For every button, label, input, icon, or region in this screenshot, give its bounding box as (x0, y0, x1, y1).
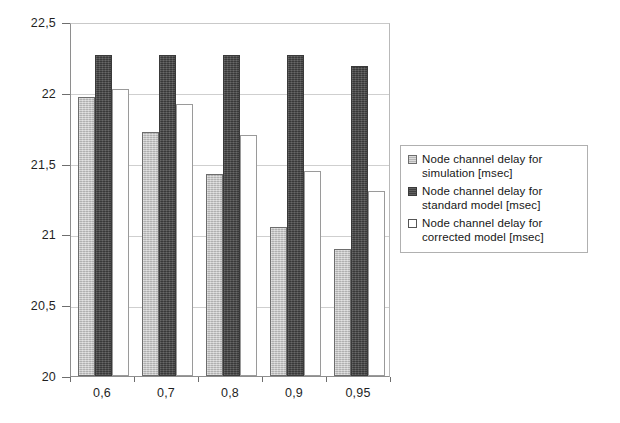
y-tick-label: 22 (10, 88, 56, 100)
x-tick-label: 0,95 (323, 386, 393, 400)
legend-label: Node channel delay for simulation [msec] (422, 153, 542, 180)
y-tick-label: 20,5 (10, 300, 56, 312)
legend-item: Node channel delay for standard model [m… (408, 185, 581, 212)
legend-item: Node channel delay for corrected model [… (408, 217, 581, 244)
y-tick-mark (62, 235, 70, 236)
x-tick-mark (134, 377, 135, 382)
bar (240, 135, 257, 376)
legend-label: Node channel delay for standard model [m… (422, 185, 542, 212)
y-tick-mark (62, 94, 70, 95)
legend-swatch (408, 155, 417, 164)
bar (304, 171, 321, 376)
bar-chart-figure: 22,52221,52120,520 0,60,70,80,90,95 Node… (0, 0, 620, 423)
y-tick-label: 22,5 (10, 17, 56, 29)
x-tick-label: 0,7 (131, 386, 201, 400)
y-tick-mark (62, 165, 70, 166)
x-tick-mark (390, 377, 391, 382)
bar (368, 191, 385, 376)
y-tick-mark (62, 306, 70, 307)
plot-area (70, 23, 390, 377)
y-tick-label: 21 (10, 229, 56, 241)
x-tick-label: 0,8 (195, 386, 265, 400)
y-tick-mark (62, 377, 70, 378)
bar (351, 66, 368, 376)
bar (176, 104, 193, 376)
legend-swatch (408, 219, 417, 228)
y-tick-mark (62, 23, 70, 24)
x-tick-mark (198, 377, 199, 382)
x-tick-mark (262, 377, 263, 382)
chart-legend: Node channel delay for simulation [msec]… (400, 145, 588, 253)
y-tick-label: 21,5 (10, 159, 56, 171)
bar (206, 174, 223, 376)
y-tick-label: 20 (10, 371, 56, 383)
bar (287, 55, 304, 376)
bar (334, 249, 351, 376)
x-tick-mark (326, 377, 327, 382)
bar (78, 97, 95, 376)
bar (112, 89, 129, 376)
legend-swatch (408, 187, 417, 196)
x-tick-mark (70, 377, 71, 382)
x-tick-label: 0,9 (259, 386, 329, 400)
bar (270, 227, 287, 376)
bar (142, 132, 159, 376)
bar (95, 55, 112, 376)
x-tick-label: 0,6 (67, 386, 137, 400)
legend-item: Node channel delay for simulation [msec] (408, 153, 581, 180)
legend-label: Node channel delay for corrected model [… (422, 217, 544, 244)
bar (159, 55, 176, 376)
bar (223, 55, 240, 376)
